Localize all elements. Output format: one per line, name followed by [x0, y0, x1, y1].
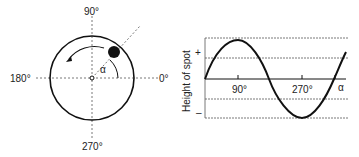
label-90: 90° — [84, 6, 99, 17]
label-270: 270° — [82, 141, 103, 152]
x-axis-label: α — [338, 82, 344, 93]
label-0: 0° — [159, 73, 169, 84]
y-axis-label: Height of spot — [181, 50, 192, 112]
plus-label: + — [195, 47, 201, 58]
xtick-90: 90° — [232, 84, 247, 95]
rotation-diagram: α 90° 0° 180° 270° — [10, 6, 169, 152]
rotation-arrow — [69, 47, 104, 59]
diagram-canvas: α 90° 0° 180° 270° 90° 270° α + – Height… — [0, 0, 359, 157]
minus-label: – — [196, 107, 202, 118]
angle-arc — [110, 60, 118, 78]
center-point — [90, 76, 94, 80]
sine-chart: 90° 270° α + – Height of spot — [181, 38, 348, 118]
arrowhead-icon — [66, 56, 72, 62]
xtick-270: 270° — [292, 84, 313, 95]
label-180: 180° — [10, 73, 31, 84]
alpha-label: α — [100, 64, 106, 75]
spot — [108, 46, 120, 58]
